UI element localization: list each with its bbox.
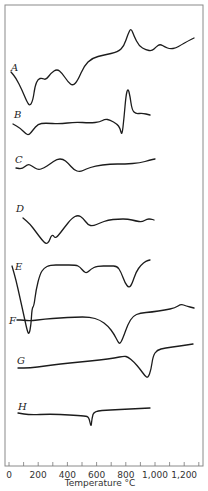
curve-h: [18, 408, 150, 425]
curve-label-h: H: [17, 401, 27, 412]
x-axis-title: Temperature °C: [64, 478, 136, 488]
curve-g: [18, 344, 193, 377]
curve-a: [11, 30, 194, 105]
curve-label-e: E: [14, 261, 23, 272]
curve-c: [16, 159, 155, 171]
dta-chart: ABCDEFGH 02004006008001,0001,200 Tempera…: [0, 0, 208, 491]
curve-f: [17, 305, 194, 344]
curve-label-f: F: [8, 315, 17, 326]
x-tick-label: 200: [30, 470, 47, 480]
curve-label-c: C: [15, 154, 23, 165]
curve-label-d: D: [15, 203, 24, 214]
x-tick-label: 1,200: [171, 470, 197, 480]
x-tick-label: 0: [6, 470, 12, 480]
curve-label-a: A: [10, 62, 18, 73]
curve-label-g: G: [17, 355, 25, 366]
curves-group: ABCDEFGH: [8, 30, 194, 426]
curve-d: [23, 216, 154, 244]
x-tick-label: 1,000: [142, 470, 168, 480]
curve-label-b: B: [13, 109, 21, 120]
plot-frame: [5, 5, 203, 466]
